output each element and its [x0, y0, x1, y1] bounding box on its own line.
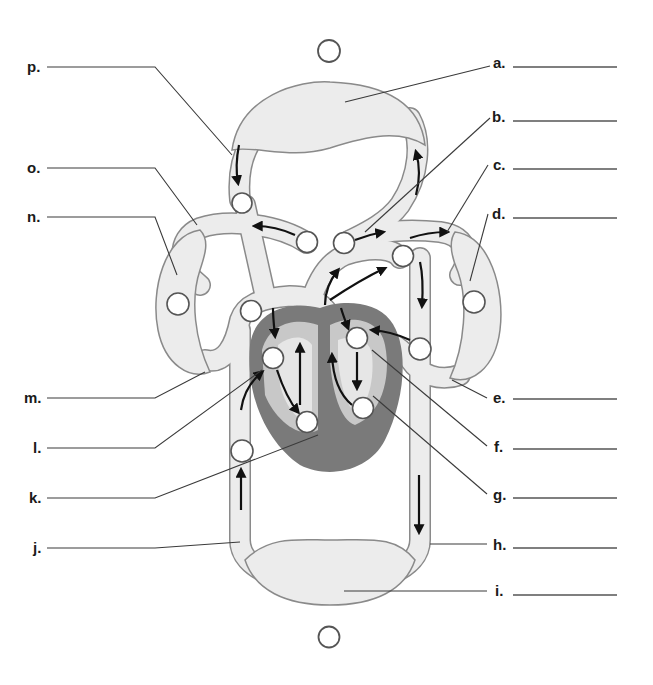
blank-circle-c-junction[interactable] — [393, 246, 414, 267]
label-f: f. — [494, 438, 503, 455]
top-capillary-bed — [232, 82, 425, 153]
bottom-capillary-bed — [245, 540, 415, 605]
label-g: g. — [493, 486, 506, 503]
label-e: e. — [493, 389, 506, 406]
blank-circle-bottom[interactable] — [319, 627, 340, 648]
label-n: n. — [27, 208, 40, 225]
blank-circle-upper-left[interactable] — [297, 232, 318, 253]
label-h: h. — [493, 536, 506, 553]
blank-circle-p-vessel[interactable] — [232, 193, 252, 213]
label-c: c. — [493, 156, 506, 173]
blank-circle-top[interactable] — [318, 40, 340, 62]
blank-circle-vena-cava[interactable] — [231, 440, 253, 462]
blank-circle-right-atrium[interactable] — [263, 348, 284, 369]
circulation-diagram: p. o. n. m. l. k. j. a. b. c. d. e. f. g… — [0, 0, 653, 685]
label-a: a. — [493, 54, 506, 71]
label-b: b. — [492, 108, 505, 125]
label-m: m. — [24, 389, 42, 406]
blank-circle-b-vessel[interactable] — [334, 233, 355, 254]
blank-circle-left-bed[interactable] — [167, 293, 189, 315]
answer-blanks[interactable] — [513, 67, 617, 595]
label-p: p. — [27, 58, 40, 75]
label-d: d. — [492, 205, 505, 222]
label-k: k. — [29, 489, 42, 506]
label-o: o. — [27, 159, 40, 176]
label-i: i. — [495, 582, 503, 599]
label-l: l. — [33, 439, 41, 456]
blank-circle-left-ventricle[interactable] — [353, 398, 374, 419]
heart — [249, 303, 402, 472]
label-j: j. — [32, 539, 41, 556]
blank-circle-right-ventricle[interactable] — [297, 412, 318, 433]
blank-circle-right-bed[interactable] — [463, 291, 485, 313]
labels-left: p. o. n. m. l. k. j. — [24, 58, 42, 556]
blank-circle-m-vessel[interactable] — [241, 301, 262, 322]
blank-circle-e-vessel[interactable] — [409, 338, 431, 360]
arrow-up-aorta-right — [330, 268, 385, 300]
blank-circle-left-atrium[interactable] — [347, 328, 368, 349]
